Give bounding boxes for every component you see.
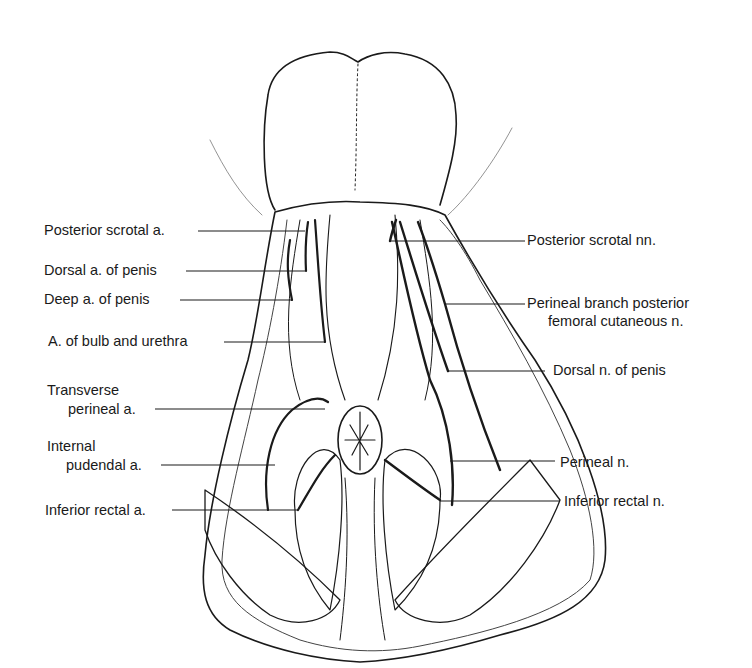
nerves (385, 220, 500, 505)
label-artery-of-bulb-and-urethra: A. of bulb and urethra (48, 333, 187, 350)
label-posterior-scrotal-nerves: Posterior scrotal nn. (527, 232, 656, 249)
label-text-line2: perineal a. (47, 401, 136, 418)
label-transverse-perineal-artery: Transverse perineal a. (47, 382, 136, 418)
label-inferior-rectal-artery: Inferior rectal a. (45, 502, 146, 519)
dorsal-artery-of-penis (306, 222, 308, 271)
ischiocavernosus-left (288, 220, 300, 400)
label-text-line2: pudendal a. (47, 457, 142, 474)
right-thigh-contour (448, 128, 512, 215)
left-ischiorectal-fossa (294, 450, 342, 610)
deep-artery-of-penis (288, 240, 292, 300)
perineal-nerve (392, 222, 453, 505)
posterior-femoral-cutaneous-branch (418, 222, 500, 470)
label-dorsal-nerve-of-penis: Dorsal n. of penis (553, 362, 666, 379)
label-text: Inferior rectal a. (45, 502, 146, 518)
label-posterior-scrotal-artery: Posterior scrotal a. (44, 222, 165, 239)
label-perineal-branch-posterior-femoral-cutaneous-nerve: Perineal branch posterior femoral cutane… (527, 295, 689, 330)
anal-folds (345, 412, 375, 470)
label-text: Posterior scrotal nn. (527, 232, 656, 248)
label-text: Dorsal a. of penis (44, 262, 157, 278)
arteries (266, 220, 335, 510)
label-inferior-rectal-nerve: Inferior rectal n. (564, 493, 665, 510)
anococcygeal-body (340, 478, 385, 640)
raphe (355, 64, 358, 190)
label-text: Deep a. of penis (44, 291, 150, 307)
label-internal-pudendal-artery: Internal pudendal a. (47, 438, 142, 474)
label-perineal-nerve: Perineal n. (560, 454, 629, 471)
label-text-line1: Perineal branch posterior (527, 295, 689, 312)
label-dorsal-artery-of-penis: Dorsal a. of penis (44, 262, 157, 279)
label-text: Dorsal n. of penis (553, 362, 666, 378)
label-text: Perineal n. (560, 454, 629, 470)
right-ischiorectal-fossa (383, 449, 440, 610)
label-text: Posterior scrotal a. (44, 222, 165, 238)
internal-pudendal-artery (266, 399, 328, 510)
label-text-line1: Internal (47, 438, 142, 455)
label-text: A. of bulb and urethra (48, 333, 187, 349)
bulbospongiosus (326, 215, 398, 400)
scrotum-outline (264, 52, 456, 210)
inferior-rectal-artery (298, 455, 335, 510)
artery-of-bulb (315, 220, 325, 342)
label-text: Inferior rectal n. (564, 493, 665, 509)
label-text-line1: Transverse (47, 382, 136, 399)
left-thigh-contour (210, 140, 262, 215)
label-deep-artery-of-penis: Deep a. of penis (44, 291, 150, 308)
label-text-line2: femoral cutaneous n. (527, 313, 689, 330)
